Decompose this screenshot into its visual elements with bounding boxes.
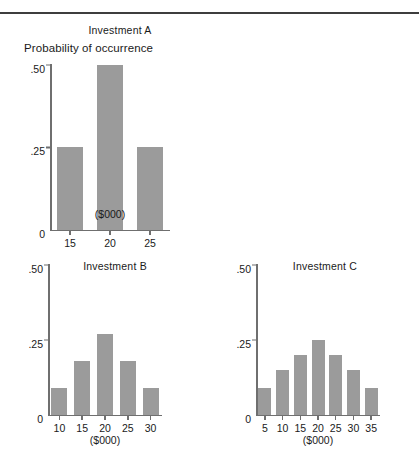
chart-c-y-axis (256, 264, 258, 416)
chart-c-x-tick-mark-4 (335, 416, 337, 420)
chart-investment-a: Investment A Probability of occurrence 0… (0, 18, 260, 253)
chart-c-x-tick-mark-3 (317, 416, 319, 420)
chart-b-x-tick-4: 30 (145, 423, 157, 434)
chart-b-bar-30 (143, 388, 159, 415)
chart-a-y-tick-0: 0 (39, 229, 50, 240)
chart-c-bar-25 (329, 355, 342, 415)
chart-b-x-tick-2: 20 (99, 423, 111, 434)
chart-b-x-tick-mark-2 (104, 416, 106, 420)
chart-c-bar-5 (258, 388, 271, 415)
chart-b-bar-25 (120, 361, 136, 415)
chart-c-bar-10 (276, 370, 289, 415)
chart-c-x-tick-mark-6 (370, 416, 372, 420)
chart-c-bar-35 (365, 388, 378, 415)
chart-investment-c: Investment C 0.25.505101520253035 ($000) (209, 258, 419, 456)
chart-b-plot-area: 0.25.501015202530 (48, 264, 162, 416)
chart-b-x-tick-mark-3 (127, 416, 129, 420)
chart-a-x-tick-1: 20 (104, 238, 116, 249)
chart-a-x-tick-mark-0 (69, 231, 71, 235)
chart-c-x-tick-6: 35 (365, 423, 377, 434)
chart-c-x-tick-1: 10 (277, 423, 289, 434)
chart-c-y-tick-mark-1 (252, 339, 256, 341)
chart-b-bar-10 (51, 388, 67, 415)
chart-b-x-tick-mark-0 (59, 416, 61, 420)
chart-b-x-axis-units: ($000) (90, 434, 120, 446)
chart-a-x-tick-0: 15 (64, 238, 76, 249)
chart-a-y-tick-mark-1 (46, 147, 50, 149)
chart-b-y-axis (48, 264, 50, 416)
chart-a-bar-25 (137, 147, 163, 230)
chart-b-bar-15 (74, 361, 90, 415)
chart-a-x-axis-units: ($000) (95, 208, 125, 220)
chart-b-y-tick-0: 0 (37, 414, 48, 425)
chart-c-x-tick-3: 20 (312, 423, 324, 434)
chart-a-y-axis (50, 64, 52, 231)
chart-c-x-tick-2: 15 (294, 423, 306, 434)
chart-investment-b: Investment B 0.25.501015202530 ($000) (0, 258, 210, 456)
chart-b-x-tick-1: 15 (76, 423, 88, 434)
chart-c-bar-15 (294, 355, 307, 415)
chart-a-y-axis-label: Probability of occurrence (24, 42, 153, 54)
chart-a-title: Investment A (60, 24, 180, 36)
chart-b-x-tick-0: 10 (54, 423, 66, 434)
chart-c-bar-20 (312, 340, 325, 415)
chart-a-x-tick-mark-2 (149, 231, 151, 235)
chart-a-y-tick-mark-2 (46, 64, 50, 66)
chart-b-bar-20 (97, 334, 113, 415)
chart-b-y-tick-mark-1 (44, 339, 48, 341)
chart-c-plot-area: 0.25.505101520253035 (256, 264, 380, 416)
chart-c-x-tick-mark-5 (353, 416, 355, 420)
chart-c-x-tick-mark-0 (264, 416, 266, 420)
chart-b-y-tick-mark-2 (44, 264, 48, 266)
chart-c-x-tick-0: 5 (262, 423, 268, 434)
chart-a-bar-20 (97, 65, 123, 230)
header-rule (0, 12, 419, 14)
chart-b-x-tick-mark-4 (150, 416, 152, 420)
chart-a-x-tick-2: 25 (144, 238, 156, 249)
chart-c-y-tick-mark-2 (252, 264, 256, 266)
chart-b-x-tick-3: 25 (122, 423, 134, 434)
chart-c-y-tick-0: 0 (245, 414, 256, 425)
chart-c-x-axis-units: ($000) (303, 434, 333, 446)
chart-a-bar-15 (57, 147, 83, 230)
chart-a-plot-area: 0.25.50152025 (50, 64, 170, 231)
chart-b-x-tick-mark-1 (81, 416, 83, 420)
chart-c-x-tick-4: 25 (330, 423, 342, 434)
chart-c-bar-30 (347, 370, 360, 415)
chart-c-x-tick-mark-2 (300, 416, 302, 420)
chart-c-x-tick-5: 30 (348, 423, 360, 434)
chart-a-x-tick-mark-1 (109, 231, 111, 235)
chart-c-x-tick-mark-1 (282, 416, 284, 420)
